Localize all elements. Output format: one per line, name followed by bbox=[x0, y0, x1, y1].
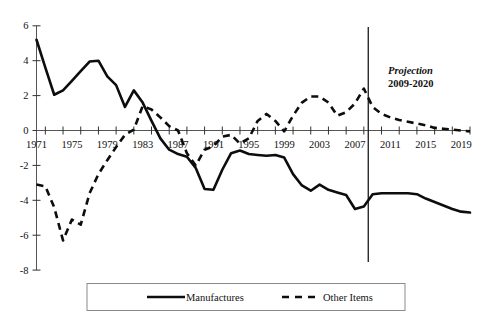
legend-label-manufactures: Manufactures bbox=[186, 292, 244, 303]
x-tick-label: 2007 bbox=[344, 139, 365, 150]
line-chart: 6420-2-4-6-8 197119751979198319871991199… bbox=[0, 0, 487, 323]
y-tick-label: -6 bbox=[20, 230, 29, 241]
x-tick-label: 2019 bbox=[451, 139, 472, 150]
x-tick-label: 2015 bbox=[415, 139, 436, 150]
y-tick-label: -8 bbox=[20, 265, 29, 276]
x-axis: 1971197519791983198719911995199920032007… bbox=[26, 127, 472, 150]
series-line-other-items bbox=[37, 89, 471, 241]
chart-container: 6420-2-4-6-8 197119751979198319871991199… bbox=[0, 0, 487, 323]
y-tick-label: 6 bbox=[23, 20, 28, 31]
legend-label-other-items: Other Items bbox=[323, 292, 373, 303]
x-tick-label: 1995 bbox=[238, 139, 259, 150]
projection-annotation: Projection 2009-2020 bbox=[388, 65, 434, 89]
x-tick-label: 1975 bbox=[61, 139, 82, 150]
y-tick-label: -2 bbox=[20, 160, 29, 171]
x-tick-label: 1971 bbox=[26, 139, 47, 150]
chart-legend: Manufactures Other Items bbox=[87, 284, 405, 311]
x-tick-label: 1987 bbox=[168, 139, 189, 150]
y-tick-label: 2 bbox=[23, 90, 28, 101]
y-tick-label: -4 bbox=[20, 195, 29, 206]
x-tick-label: 1999 bbox=[274, 139, 295, 150]
x-tick-label: 2011 bbox=[380, 139, 401, 150]
projection-range-label: 2009-2020 bbox=[388, 78, 434, 89]
y-tick-label: 4 bbox=[23, 55, 29, 66]
y-tick-label: 0 bbox=[23, 125, 28, 136]
projection-title-label: Projection bbox=[388, 65, 433, 76]
x-tick-label: 2003 bbox=[309, 139, 330, 150]
x-tick-label: 1983 bbox=[132, 139, 153, 150]
